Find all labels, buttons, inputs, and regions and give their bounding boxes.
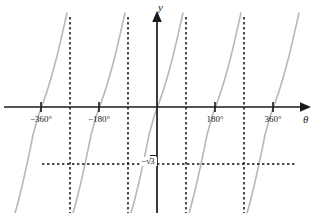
tick-label-plus-360: 360° [257, 115, 289, 124]
radicand-3: 3 [150, 155, 156, 166]
tick-label-minus-180: −180° [79, 115, 119, 124]
plot-canvas [0, 0, 317, 213]
tangent-graph-figure: y θ −360° −180° 180° 360° −√3 [0, 0, 317, 213]
tangent-branch-5 [247, 13, 299, 213]
tick-label-minus-360: −360° [21, 115, 61, 124]
tangent-branch-2 [73, 13, 125, 213]
x-axis-label-theta: θ [303, 114, 308, 125]
tick-label-plus-180: 180° [199, 115, 231, 124]
reference-line-label-minus-sqrt3: −√3 [140, 157, 157, 166]
x-axis-arrowhead [300, 102, 311, 112]
tangent-branch-4 [189, 13, 241, 213]
tangent-branch-1 [15, 13, 67, 213]
y-axis-label: y [158, 2, 163, 13]
